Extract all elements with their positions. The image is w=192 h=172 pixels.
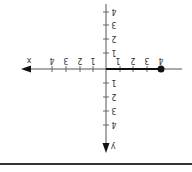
- svg-text:4: 4: [111, 120, 116, 129]
- svg-text:3: 3: [63, 56, 68, 65]
- tick-labels: x 4 3 2 1 1 2 3 4 4 3 2 1 1 2 3 4 y: [26, 7, 163, 151]
- svg-text:2: 2: [77, 56, 82, 65]
- endpoint-dot: [158, 66, 165, 73]
- y-axis-arrow-icon: [103, 143, 110, 153]
- svg-text:1: 1: [111, 78, 116, 87]
- svg-text:2: 2: [130, 56, 135, 65]
- svg-text:3: 3: [111, 20, 116, 29]
- svg-text:4: 4: [158, 56, 163, 65]
- svg-text:4: 4: [49, 56, 54, 65]
- svg-text:1: 1: [111, 48, 116, 57]
- x-axis-arrow-icon: [21, 66, 31, 73]
- diagram-canvas: x 4 3 2 1 1 2 3 4 4 3 2 1 1 2 3 4 y: [0, 0, 192, 172]
- coordinate-plane-diagram: x 4 3 2 1 1 2 3 4 4 3 2 1 1 2 3 4 y: [0, 0, 192, 172]
- svg-text:3: 3: [111, 106, 116, 115]
- svg-text:1: 1: [90, 56, 95, 65]
- svg-text:3: 3: [144, 56, 149, 65]
- svg-text:2: 2: [111, 92, 116, 101]
- svg-text:y: y: [110, 142, 115, 151]
- svg-text:2: 2: [111, 34, 116, 43]
- svg-text:x: x: [26, 56, 31, 65]
- svg-text:4: 4: [111, 7, 116, 16]
